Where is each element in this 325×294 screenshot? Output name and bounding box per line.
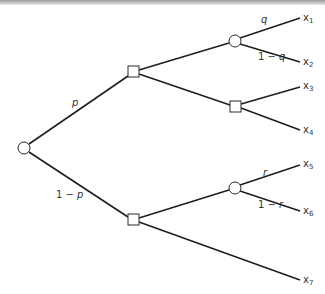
chance-node-c2-icon [229, 182, 241, 194]
prob-label-q: q [261, 14, 267, 25]
edge-root-d1 [29, 76, 128, 144]
edge-d2-x7 [139, 222, 300, 280]
edge-d3-x3 [241, 87, 300, 104]
chance-node-root-icon [18, 142, 30, 154]
decision-tree-diagram: p 1 − p q 1 − q r 1 − r x1 x2 x3 x4 x5 x… [0, 0, 325, 294]
edge-d1-d3 [139, 74, 230, 105]
outcome-label-x1: x1 [303, 12, 313, 25]
outcome-label-x5: x5 [303, 158, 313, 171]
outcome-label-x7: x7 [303, 274, 313, 287]
edge-d3-x4 [241, 108, 300, 130]
prob-label-p: p [71, 97, 78, 108]
edge-d2-c2 [139, 190, 229, 218]
edge-d1-c1 [139, 43, 229, 70]
decision-node-d2-icon [128, 214, 139, 225]
outcome-labels: x1 x2 x3 x4 x5 x6 x7 [303, 12, 314, 287]
edge-c1-x1 [240, 18, 300, 38]
prob-label-1-minus-p: 1 − p [56, 189, 83, 200]
outcome-label-x2: x2 [303, 56, 313, 69]
prob-label-1-minus-r: 1 − r [258, 199, 284, 210]
edge-root-d2 [29, 152, 128, 217]
decision-node-d1-icon [128, 66, 139, 77]
chance-node-c1-icon [229, 35, 241, 47]
outcome-label-x4: x4 [303, 124, 314, 137]
edge-c2-x5 [240, 165, 300, 185]
prob-label-1-minus-q: 1 − q [258, 51, 285, 62]
outcome-label-x3: x3 [303, 80, 313, 93]
decision-node-d3-icon [230, 101, 241, 112]
outcome-label-x6: x6 [303, 205, 314, 218]
